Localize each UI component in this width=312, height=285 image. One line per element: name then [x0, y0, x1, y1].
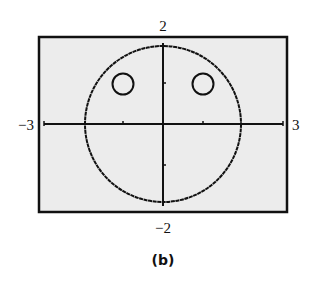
graphing-calculator-figure: 2 −2 −3 3 (b)	[0, 0, 312, 285]
y-max-label: 2	[159, 18, 167, 34]
x-min-label: −3	[18, 117, 34, 133]
x-max-label: 3	[292, 117, 300, 133]
y-min-label: −2	[155, 220, 171, 236]
figure-caption: (b)	[152, 252, 175, 268]
